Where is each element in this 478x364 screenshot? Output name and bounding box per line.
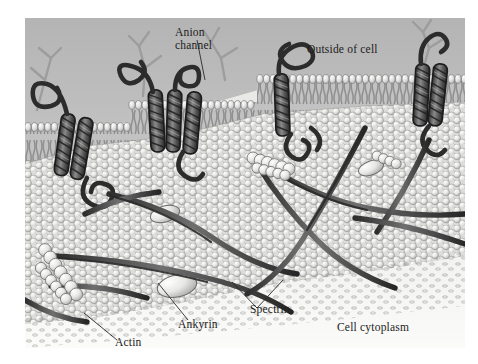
- label-anion-channel: Anionchannel: [175, 26, 212, 51]
- label-outside-of-cell: Outside of cell: [307, 43, 378, 56]
- membrane-cytoskeleton-figure: Anionchannel Outside of cell Spectrin An…: [0, 0, 478, 364]
- label-anion-channel-line1: Anion: [175, 26, 205, 38]
- label-actin: Actin: [115, 336, 142, 348]
- label-cell-cytoplasm: Cell cytoplasm: [337, 321, 409, 334]
- label-ankyrin: Ankyrin: [178, 318, 218, 331]
- illustration-canvas: [25, 18, 465, 348]
- label-spectrin: Spectrin: [250, 303, 290, 316]
- illustration-plate: Anionchannel Outside of cell Spectrin An…: [25, 18, 465, 348]
- label-anion-channel-line2: channel: [175, 39, 212, 51]
